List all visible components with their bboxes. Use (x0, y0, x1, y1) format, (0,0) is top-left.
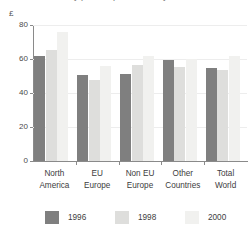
legend-label: 2000 (208, 213, 226, 222)
bar-group (120, 25, 154, 161)
bar (34, 56, 45, 161)
bar-group (206, 25, 240, 161)
y-axis-tick-label: 20 (19, 123, 28, 131)
x-axis-category-label: TotalWorld (198, 168, 251, 191)
bar (174, 67, 185, 161)
legend-label: 1998 (138, 213, 156, 222)
legend-swatch (115, 211, 129, 224)
y-axis-tick-label: 80 (19, 21, 28, 29)
bar (163, 60, 174, 161)
bar (206, 68, 217, 162)
y-axis-tick-label: 60 (19, 55, 28, 63)
legend-item[interactable]: 2000 (185, 208, 226, 226)
y-axis-tick-mark (30, 161, 33, 162)
chart-title: by price of product and year (0, 0, 251, 1)
plot-area: 020406080 (33, 25, 247, 161)
bars-layer (33, 25, 247, 161)
bar (186, 59, 197, 161)
bar (132, 65, 143, 161)
x-axis-tick-mark (119, 161, 120, 165)
bar (89, 80, 100, 161)
bar (77, 75, 88, 161)
bar (100, 66, 111, 161)
legend-label: 1996 (68, 213, 86, 222)
y-axis-unit-label: £ (9, 9, 13, 18)
x-axis-line (33, 161, 248, 162)
legend-swatch (45, 211, 59, 224)
y-axis-tick-label: 0 (24, 157, 28, 165)
y-axis-tick-label: 40 (19, 89, 28, 97)
legend-item[interactable]: 1998 (115, 208, 156, 226)
bar-group (34, 25, 68, 161)
bar-group (77, 25, 111, 161)
bar (120, 74, 131, 161)
bar (57, 32, 68, 161)
x-axis-tick-mark (204, 161, 205, 165)
bar (143, 56, 154, 161)
bar (46, 50, 57, 161)
bar (217, 70, 228, 161)
bar-chart-figure: by price of product and year £ 020406080… (0, 0, 251, 239)
chart-legend: 199619982000 (33, 208, 247, 230)
bar (229, 56, 240, 161)
x-axis-tick-mark (76, 161, 77, 165)
legend-item[interactable]: 1996 (45, 208, 86, 226)
bar-group (163, 25, 197, 161)
legend-swatch (185, 211, 199, 224)
x-axis-tick-mark (161, 161, 162, 165)
